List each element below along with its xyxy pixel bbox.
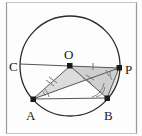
vertex-label-A: A [26,108,36,123]
vertex-label-P: P [125,62,132,77]
vertex-label-B: B [104,108,113,123]
vertex-label-C: C [9,59,18,74]
vertex-label-O: O [64,47,73,62]
vertex-dot-O [67,63,73,69]
vertex-dot-B [105,96,111,102]
segment-AB [33,98,107,99]
geometry-figure: C O P A B [0,0,142,136]
vertex-dot-P [117,65,123,71]
vertex-dot-A [31,97,37,103]
geometry-canvas: C O P A B [0,0,142,136]
